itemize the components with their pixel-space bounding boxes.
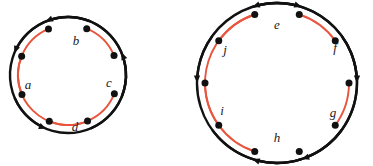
arc-label-i: i — [220, 103, 224, 118]
node-dot — [332, 122, 339, 129]
red-arc — [219, 15, 255, 41]
node-dot — [296, 11, 303, 18]
red-arc — [299, 15, 335, 41]
node-dot — [332, 37, 339, 44]
node-dot — [215, 37, 222, 44]
arc-label-j: j — [221, 42, 227, 57]
node-dot — [215, 122, 222, 129]
arc-label-b: b — [73, 33, 80, 48]
directed-arc-f — [342, 36, 357, 77]
arrowhead-d — [38, 123, 46, 129]
arc-label-c: c — [106, 75, 112, 90]
right-circle: efghij — [194, 2, 360, 165]
red-arc — [87, 29, 114, 56]
directed-arc-g — [308, 130, 342, 157]
arc-label-e: e — [274, 17, 280, 32]
node-dot — [18, 91, 25, 98]
node-dot — [296, 148, 303, 155]
node-dot — [202, 80, 209, 87]
red-arc — [205, 15, 255, 126]
node-dot — [83, 25, 90, 32]
node-dot — [111, 90, 118, 97]
diagram-canvas: abcdefghij — [0, 0, 373, 166]
red-arc — [335, 83, 349, 125]
node-dot — [18, 53, 25, 60]
arc-label-h: h — [274, 130, 281, 145]
arc-label-g: g — [330, 105, 337, 120]
node-dot — [251, 148, 258, 155]
arc-label-a: a — [25, 77, 32, 92]
circle-arc-diagram: abcdefghij — [0, 0, 373, 166]
node-dot — [84, 118, 91, 125]
node-dot — [346, 80, 353, 87]
node-dot — [251, 11, 258, 18]
node-dot — [111, 52, 118, 59]
directed-arc-d — [10, 17, 126, 128]
node-dot — [46, 118, 53, 125]
arrowhead-j — [252, 2, 260, 8]
red-arc — [205, 83, 255, 151]
node-dot — [45, 25, 52, 32]
arc-label-d: d — [72, 119, 79, 134]
left-circle: abcd — [10, 16, 127, 134]
